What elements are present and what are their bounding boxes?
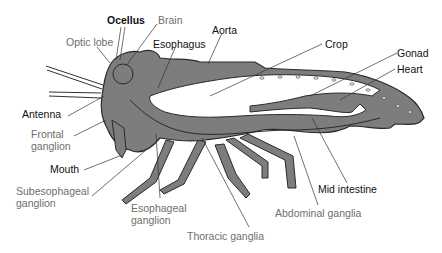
label-crop: Crop bbox=[325, 38, 348, 50]
label-thoracic-ganglia: Thoracic ganglia bbox=[187, 230, 264, 242]
label-heart: Heart bbox=[397, 63, 423, 75]
label-abdominal-ganglia: Abdominal ganglia bbox=[275, 207, 361, 219]
label-mid-intestine: Mid intestine bbox=[318, 183, 377, 195]
label-frontal-ganglion-line1: Frontal bbox=[31, 128, 64, 140]
antenna-shapes bbox=[46, 66, 103, 98]
label-optic-lobe: Optic lobe bbox=[66, 36, 113, 48]
label-esophagus: Esophagus bbox=[153, 38, 206, 50]
label-antenna: Antenna bbox=[22, 108, 61, 120]
label-esophageal-ganglion-line2: ganglion bbox=[131, 214, 171, 226]
label-aorta: Aorta bbox=[212, 24, 237, 36]
label-frontal-ganglion-line2: ganglion bbox=[31, 140, 71, 152]
label-subesophageal-ganglion-line2: ganglion bbox=[16, 197, 56, 209]
label-brain: Brain bbox=[158, 14, 183, 26]
label-gonad: Gonad bbox=[397, 47, 429, 59]
label-subesophageal-ganglion-line1: Subesophageal bbox=[16, 185, 89, 197]
label-esophageal-ganglion-line1: Esophageal bbox=[131, 202, 186, 214]
insect-anatomy-diagram: Ocellus Brain Optic lobe Esophagus Aorta… bbox=[0, 0, 442, 253]
label-ocellus: Ocellus bbox=[107, 14, 145, 26]
brain-shape bbox=[113, 64, 133, 84]
label-mouth: Mouth bbox=[50, 163, 79, 175]
